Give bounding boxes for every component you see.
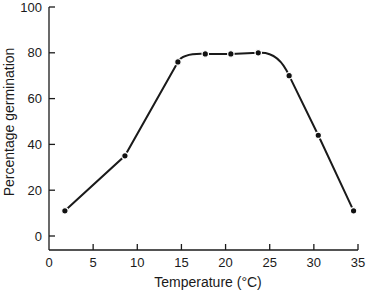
x-axis-title: Temperature (°C) xyxy=(154,274,262,290)
line-chart: 020406080100 05101520253035 Percentage g… xyxy=(0,0,368,294)
y-tick-label: 80 xyxy=(28,45,42,60)
data-points xyxy=(62,50,357,214)
data-point xyxy=(255,50,261,56)
data-point xyxy=(202,51,208,57)
y-tick-label: 60 xyxy=(28,91,42,106)
data-point xyxy=(286,73,292,79)
data-point xyxy=(315,132,321,138)
data-point xyxy=(175,59,181,65)
data-point xyxy=(122,153,128,159)
data-point xyxy=(350,208,356,214)
x-tick-label: 35 xyxy=(351,255,365,270)
y-tick-label: 100 xyxy=(20,0,42,15)
y-tick-label: 40 xyxy=(28,137,42,152)
data-point xyxy=(62,208,68,214)
x-tick-label: 5 xyxy=(90,255,97,270)
y-tick-label: 0 xyxy=(35,229,42,244)
y-tick-label: 20 xyxy=(28,183,42,198)
x-tick-label: 15 xyxy=(174,255,188,270)
y-axis-title: Percentage germination xyxy=(1,48,17,197)
x-tick-label: 10 xyxy=(130,255,144,270)
y-axis: 020406080100 xyxy=(20,0,55,244)
x-tick-label: 20 xyxy=(218,255,232,270)
x-tick-label: 30 xyxy=(307,255,321,270)
x-tick-label: 25 xyxy=(262,255,276,270)
germination-curve xyxy=(65,53,354,211)
data-point xyxy=(228,51,234,57)
x-tick-label: 0 xyxy=(45,255,52,270)
x-axis: 05101520253035 xyxy=(45,244,365,270)
